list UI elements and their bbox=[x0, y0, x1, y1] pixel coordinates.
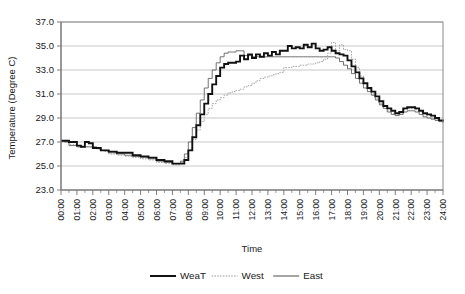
x-tick-label: 14:00 bbox=[279, 199, 289, 221]
x-axis-ticks bbox=[61, 190, 443, 195]
series-line-east bbox=[61, 51, 443, 164]
x-tick-label: 03:00 bbox=[104, 199, 114, 221]
x-tick-label: 07:00 bbox=[168, 199, 178, 221]
temperature-line-chart: 23.025.027.029.031.033.035.037.0 00:0001… bbox=[0, 0, 465, 294]
chart-legend: WeaTWestEast bbox=[150, 270, 323, 281]
x-tick-label: 23:00 bbox=[422, 199, 432, 221]
y-tick-label: 27.0 bbox=[36, 136, 55, 147]
x-tick-label: 09:00 bbox=[200, 199, 210, 221]
x-tick-label: 21:00 bbox=[391, 199, 401, 221]
x-axis-tick-labels: 00:0001:0002:0003:0004:0005:0006:0007:00… bbox=[56, 199, 448, 221]
y-tick-label: 29.0 bbox=[36, 112, 55, 123]
x-tick-label: 22:00 bbox=[406, 199, 416, 221]
chart-canvas: 23.025.027.029.031.033.035.037.0 00:0001… bbox=[0, 0, 465, 294]
y-tick-label: 33.0 bbox=[36, 64, 55, 75]
series-line-west bbox=[61, 42, 443, 164]
x-tick-label: 13:00 bbox=[263, 199, 273, 221]
y-axis-title: Temperature (Degree C) bbox=[6, 57, 17, 160]
x-tick-label: 19:00 bbox=[359, 199, 369, 221]
legend-label-west: West bbox=[242, 270, 264, 281]
gridlines bbox=[61, 22, 443, 166]
legend-label-weat: WeaT bbox=[180, 270, 206, 281]
x-tick-label: 18:00 bbox=[343, 199, 353, 221]
x-tick-label: 16:00 bbox=[311, 199, 321, 221]
x-axis-title: Time bbox=[242, 243, 263, 254]
y-tick-label: 35.0 bbox=[36, 40, 55, 51]
x-tick-label: 10:00 bbox=[215, 199, 225, 221]
x-tick-label: 20:00 bbox=[375, 199, 385, 221]
x-tick-label: 24:00 bbox=[438, 199, 448, 221]
y-axis-tick-labels: 23.025.027.029.031.033.035.037.0 bbox=[36, 16, 55, 195]
x-tick-label: 11:00 bbox=[231, 199, 241, 220]
x-tick-label: 02:00 bbox=[88, 199, 98, 221]
y-tick-label: 31.0 bbox=[36, 88, 55, 99]
x-tick-label: 06:00 bbox=[152, 199, 162, 221]
x-tick-label: 01:00 bbox=[72, 199, 82, 221]
series-line-weat bbox=[61, 44, 443, 164]
data-series bbox=[61, 42, 443, 164]
x-tick-label: 05:00 bbox=[136, 199, 146, 221]
x-tick-label: 04:00 bbox=[120, 199, 130, 221]
y-tick-label: 37.0 bbox=[36, 16, 55, 27]
x-tick-label: 00:00 bbox=[56, 199, 66, 221]
x-tick-label: 15:00 bbox=[295, 199, 305, 221]
x-tick-label: 08:00 bbox=[184, 199, 194, 221]
legend-label-east: East bbox=[303, 270, 323, 281]
x-tick-label: 17:00 bbox=[327, 199, 337, 221]
y-axis-ticks bbox=[57, 22, 61, 190]
x-tick-label: 12:00 bbox=[247, 199, 257, 221]
y-tick-label: 25.0 bbox=[36, 160, 55, 171]
y-tick-label: 23.0 bbox=[36, 184, 55, 195]
